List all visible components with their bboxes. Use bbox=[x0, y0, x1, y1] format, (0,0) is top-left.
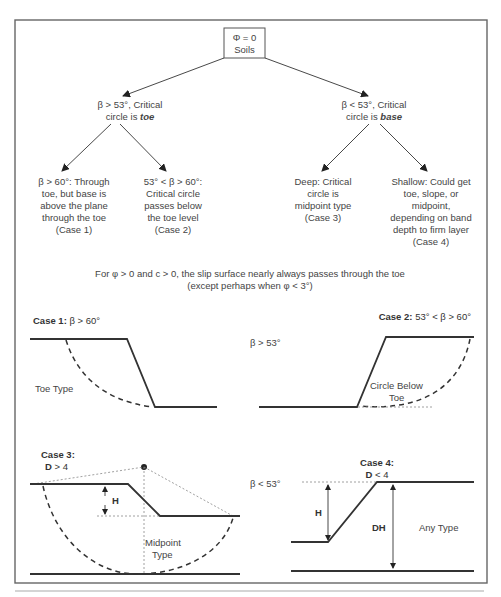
case4-label: Any Type bbox=[419, 522, 458, 533]
svg-text:toe, but base is: toe, but base is bbox=[42, 188, 107, 199]
case1-label: Toe Type bbox=[35, 383, 73, 394]
root-label-line1: Φ = 0 bbox=[233, 32, 257, 43]
case3-title: Case 3: bbox=[41, 449, 75, 460]
svg-text:(Case 3): (Case 3) bbox=[305, 212, 341, 223]
slope-stability-diagram: Φ = 0 Soils β > 53°, Critical circle is … bbox=[0, 0, 501, 597]
branch-right-line1: β < 53°, Critical bbox=[342, 99, 407, 110]
svg-text:Shallow: Could get: Shallow: Could get bbox=[391, 176, 471, 187]
diagram-frame bbox=[15, 20, 487, 583]
decision-tree: Φ = 0 Soils β > 53°, Critical circle is … bbox=[38, 28, 471, 247]
leaf-case3: Deep: Critical circle is midpoint type (… bbox=[294, 176, 351, 223]
root-label-line2: Soils bbox=[234, 44, 255, 55]
svg-text:depending on band: depending on band bbox=[390, 212, 471, 223]
note-line2: (except perhaps when φ < 3°) bbox=[187, 280, 312, 291]
svg-text:(Case 4): (Case 4) bbox=[413, 236, 449, 247]
arrow-left-to-case2 bbox=[120, 124, 166, 171]
case2-sketch: Case 2: 53° < β > 60° Circle Below Toe bbox=[259, 311, 474, 407]
svg-text:circle is: circle is bbox=[307, 188, 339, 199]
case2-slip-circle bbox=[360, 339, 470, 407]
svg-text:passes below: passes below bbox=[144, 200, 202, 211]
case3-sketch: Case 3: D > 4 H Midpoint Type bbox=[30, 449, 240, 574]
case2-label-line2: Toe bbox=[389, 392, 404, 403]
case3-slope-profile bbox=[30, 484, 240, 516]
case3-h-label: H bbox=[112, 495, 119, 506]
svg-text:midpoint type: midpoint type bbox=[295, 200, 352, 211]
svg-text:(Case 2): (Case 2) bbox=[155, 224, 191, 235]
svg-text:Critical circle: Critical circle bbox=[146, 188, 200, 199]
svg-text:depth to firm layer: depth to firm layer bbox=[393, 224, 469, 235]
branch-left-line2: circle is toe bbox=[106, 111, 155, 122]
svg-text:the toe level: the toe level bbox=[147, 212, 198, 223]
leaf-case2: 53° < β > 60°: Critical circle passes be… bbox=[144, 176, 203, 235]
svg-text:above the plane: above the plane bbox=[40, 200, 108, 211]
svg-text:toe, slope, or: toe, slope, or bbox=[404, 188, 459, 199]
svg-text:(Case 1): (Case 1) bbox=[56, 224, 92, 235]
arrow-right-to-case3 bbox=[322, 124, 369, 171]
case4-h-label: H bbox=[315, 507, 322, 518]
case4-title: Case 4: bbox=[360, 457, 394, 468]
arrow-right-to-case4 bbox=[380, 124, 427, 171]
svg-text:midpoint,: midpoint, bbox=[412, 200, 451, 211]
case1-title: Case 1: β > 60° bbox=[33, 315, 100, 326]
row-label-upper: β > 53° bbox=[250, 337, 281, 348]
svg-text:Deep: Critical: Deep: Critical bbox=[294, 176, 351, 187]
arrow-root-to-left bbox=[123, 58, 224, 96]
svg-text:through the toe: through the toe bbox=[42, 212, 106, 223]
leaf-case4: Shallow: Could get toe, slope, or midpoi… bbox=[390, 176, 471, 247]
case1-sketch: Case 1: β > 60° Toe Type bbox=[30, 315, 217, 407]
case3-label-line1: Midpoint bbox=[145, 537, 181, 548]
case1-slip-circle bbox=[66, 340, 152, 407]
arrow-root-to-right bbox=[265, 58, 368, 96]
branch-right-line2: circle is base bbox=[346, 111, 403, 122]
leaf-case1: β > 60°: Through toe, but base is above … bbox=[38, 176, 109, 235]
note-line1: For φ > 0 and c > 0, the slip surface ne… bbox=[95, 268, 405, 279]
arrow-left-to-case1 bbox=[62, 124, 111, 171]
case1-slope-profile bbox=[30, 339, 217, 407]
case4-dh-label: DH bbox=[372, 522, 386, 533]
case3-radius-right bbox=[144, 467, 233, 516]
svg-text:53° < β > 60°:: 53° < β > 60°: bbox=[144, 176, 203, 187]
emphasis-base: base bbox=[380, 111, 402, 122]
case3-subtitle: D > 4 bbox=[45, 461, 68, 472]
case4-subtitle: D < 4 bbox=[366, 469, 389, 480]
case4-sketch: Case 4: D < 4 H DH Any Type bbox=[291, 457, 474, 571]
case3-label-line2: Type bbox=[152, 549, 173, 560]
case2-slope-profile bbox=[259, 337, 474, 407]
svg-text:β > 60°: Through: β > 60°: Through bbox=[38, 176, 109, 187]
branch-left-line1: β > 53°, Critical bbox=[98, 99, 163, 110]
case3-slip-circle bbox=[43, 486, 233, 574]
case2-title: Case 2: 53° < β > 60° bbox=[379, 311, 472, 322]
row-label-lower: β < 53° bbox=[250, 478, 281, 489]
emphasis-toe: toe bbox=[140, 111, 155, 122]
case2-label-line1: Circle Below bbox=[370, 380, 423, 391]
